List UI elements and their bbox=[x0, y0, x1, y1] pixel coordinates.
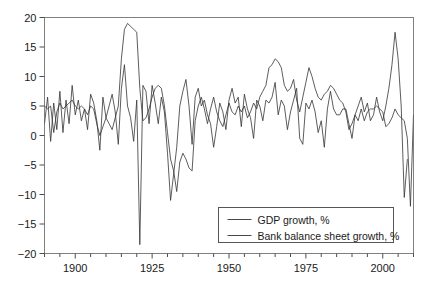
legend-label-1: Bank balance sheet growth, % bbox=[258, 230, 400, 242]
y-tick-label: −10 bbox=[18, 189, 37, 201]
y-tick-label: 0 bbox=[30, 130, 36, 142]
y-tick-label: 10 bbox=[24, 71, 36, 83]
x-tick-label: 2000 bbox=[371, 262, 395, 274]
y-tick-label: −15 bbox=[18, 218, 37, 230]
series-line-1 bbox=[45, 23, 408, 197]
line-chart: 19001925195019752000−20−15−10−505101520G… bbox=[0, 0, 428, 285]
y-tick-label: 20 bbox=[24, 12, 36, 24]
x-tick-label: 1975 bbox=[294, 262, 318, 274]
y-tick-label: −20 bbox=[18, 248, 37, 260]
y-tick-label: 15 bbox=[24, 41, 36, 53]
y-tick-label: −5 bbox=[24, 159, 37, 171]
legend-label-0: GDP growth, % bbox=[258, 214, 330, 226]
y-tick-label: 5 bbox=[30, 100, 36, 112]
chart-figure: 19001925195019752000−20−15−10−505101520G… bbox=[0, 0, 428, 285]
x-tick-label: 1925 bbox=[140, 262, 164, 274]
x-tick-label: 1950 bbox=[217, 262, 241, 274]
x-tick-label: 1900 bbox=[63, 262, 87, 274]
